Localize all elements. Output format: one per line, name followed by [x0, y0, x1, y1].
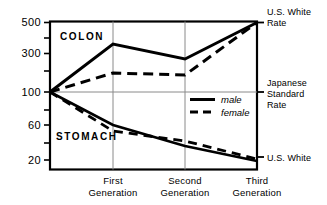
- x-axis-labels: First Generation Second Generation Third…: [88, 175, 281, 198]
- y-tick-label-300: 300: [21, 47, 41, 59]
- x-tick-label-third-line2: Generation: [232, 187, 281, 198]
- annotation-us-white-bottom: U.S. White: [267, 153, 311, 163]
- annotation-japanese-rate-line3: Rate: [267, 100, 286, 110]
- y-tick-label-20: 20: [28, 154, 41, 166]
- x-tick-label-first-line1: First: [103, 175, 123, 186]
- x-tick-label-second-line2: Generation: [160, 187, 209, 198]
- chart-container: 500 300 100 60 20 COLON STOMACH male fem…: [0, 0, 327, 205]
- x-tick-label-second-line1: Second: [168, 175, 201, 186]
- annotation-japanese-rate-line1: Japanese: [267, 78, 307, 88]
- annotation-us-white-rate-line1: U.S. White: [267, 7, 311, 17]
- site-label-stomach: STOMACH: [56, 131, 118, 142]
- annotation-us-white-rate-line2: Rate: [267, 18, 286, 28]
- annotation-japanese-rate-line2: Standard: [267, 89, 304, 99]
- site-label-colon: COLON: [60, 31, 104, 42]
- legend-label-female: female: [221, 107, 250, 118]
- y-tick-label-60: 60: [28, 119, 41, 131]
- x-tick-label-first-line2: Generation: [88, 187, 137, 198]
- y-tick-label-500: 500: [21, 16, 41, 28]
- line-chart: 500 300 100 60 20 COLON STOMACH male fem…: [0, 0, 327, 205]
- right-annotations: U.S. White Rate Japanese Standard Rate U…: [267, 7, 311, 163]
- x-tick-label-third-line1: Third: [246, 175, 269, 186]
- legend-label-male: male: [221, 94, 242, 105]
- y-tick-label-100: 100: [21, 86, 41, 98]
